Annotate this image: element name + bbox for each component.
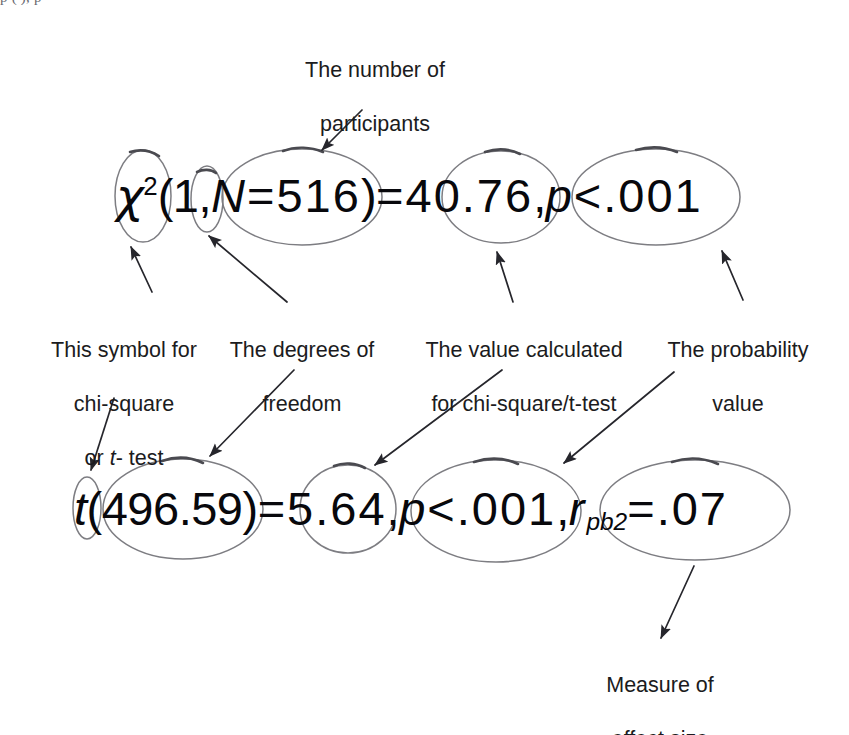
note-number-of-participants: The number of participants	[270, 30, 480, 165]
arrow-effect-size-value-to-note	[661, 566, 694, 638]
t-statistic-symbol: t	[74, 482, 87, 535]
chi-close-paren: )	[361, 169, 376, 222]
note-degrees-of-freedom-line1: The degrees of	[212, 337, 392, 364]
chi-square-symbol: χ	[116, 168, 143, 223]
note-chi-square-symbol: This symbol for chi-square or t- test	[24, 310, 224, 499]
t-degrees-of-freedom: 496.59	[102, 482, 243, 535]
t-test-value: 5.64	[287, 482, 386, 535]
note-calculated-value: The value calculated for chi-square/t-te…	[406, 310, 642, 445]
t-p-operator: <	[427, 482, 456, 535]
effect-size-symbol: r	[569, 482, 587, 535]
cut-off-text-line: p ( ), p	[0, 0, 849, 5]
note-probability-value-line1: The probability	[648, 337, 828, 364]
effect-size-equals: =	[627, 482, 656, 535]
t-comma-2: ,	[556, 482, 569, 535]
t-comma-1: ,	[387, 482, 400, 535]
sample-size-equals: =	[247, 169, 276, 222]
t-close-paren: )	[242, 482, 257, 535]
equation-t-test: t(496.59)=5.64,p<.001,rpb2=.07	[74, 481, 728, 536]
arrow-value-note-to-chi-value	[497, 252, 513, 302]
note-number-of-participants-line2: participants	[270, 111, 480, 138]
arrow-probability-note-to-chi-p-value	[722, 251, 743, 300]
chi-open-paren: (	[158, 169, 173, 222]
note-effect-size-line1: Measure of	[560, 672, 760, 699]
t-open-paren: (	[87, 482, 102, 535]
chi-square-exponent: 2	[143, 172, 157, 200]
note-chi-square-symbol-line2: chi-square	[24, 391, 224, 418]
note-calculated-value-line2: for chi-square/t-test	[406, 391, 642, 418]
note-chi-square-symbol-line1: This symbol for	[24, 337, 224, 364]
note-probability-value: The probability value	[648, 310, 828, 445]
chi-equals: =	[376, 169, 405, 222]
t-equals: =	[258, 482, 287, 535]
chi-square-test-value: 40.76	[406, 169, 534, 222]
chi-comma-2: ,	[533, 169, 546, 222]
chi-p-operator: <	[574, 169, 603, 222]
note-chi-square-symbol-line3: or t- test	[24, 445, 224, 472]
sample-size-label: N	[211, 169, 247, 222]
note-calculated-value-line1: The value calculated	[406, 337, 642, 364]
effect-size-subscript: pb2	[586, 508, 627, 535]
sample-size-value: 516	[276, 169, 360, 222]
note-effect-size: Measure of effect size	[560, 645, 760, 735]
t-p-symbol: p	[399, 482, 427, 535]
note-number-of-participants-line1: The number of	[270, 57, 480, 84]
effect-size-value: .07	[657, 482, 728, 535]
arrow-chi-symbol-note-to-chi-ellipse	[131, 247, 152, 292]
t-p-value: .001	[457, 482, 556, 535]
note-chi-square-symbol-line3-suffix: - test	[116, 446, 164, 470]
chi-degrees-of-freedom: 1	[173, 169, 199, 222]
chi-comma-1: ,	[199, 169, 212, 222]
note-effect-size-line2: effect size	[560, 726, 760, 735]
equation-chi-square: χ2(1,N=516)=40.76,p<.001	[116, 168, 703, 223]
note-probability-value-line2: value	[648, 391, 828, 418]
chi-p-value: .001	[603, 169, 702, 222]
note-degrees-of-freedom-line2: freedom	[212, 391, 392, 418]
chi-p-symbol: p	[546, 169, 574, 222]
figure-canvas: p ( ), p	[0, 0, 849, 735]
note-chi-square-symbol-line3-prefix: or	[85, 446, 110, 470]
note-degrees-of-freedom: The degrees of freedom	[212, 310, 392, 445]
arrow-df-note-to-df-ellipse	[209, 236, 287, 302]
